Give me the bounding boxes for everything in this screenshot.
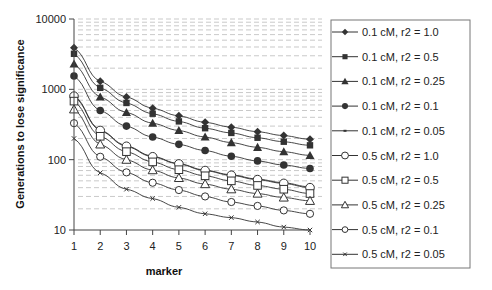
- square-filled-marker-icon: [281, 139, 287, 145]
- triangle-open-marker-icon: [96, 140, 105, 148]
- square-filled-marker-icon: [254, 135, 260, 141]
- square-open-marker-icon: [228, 177, 236, 185]
- circle-open-small-marker-icon: [254, 202, 261, 209]
- legend-label: 0.5 cM, r2 = 0.25: [362, 199, 445, 211]
- square-open-marker-icon: [342, 177, 348, 183]
- circle-filled-marker-icon: [254, 157, 262, 165]
- x-tick-label: 3: [123, 240, 129, 252]
- series-line: [70, 59, 315, 159]
- y-tick-label: 1000: [42, 83, 66, 95]
- legend-label: 0.5 cM, r2 = 1.0: [362, 150, 439, 162]
- circle-open-small-marker-icon: [123, 169, 130, 176]
- circle-filled-marker-icon: [201, 147, 209, 155]
- square-open-marker-icon: [280, 185, 288, 193]
- circle-filled-marker-icon: [306, 165, 314, 173]
- series-path: [74, 123, 310, 214]
- circle-filled-marker-icon: [228, 152, 236, 160]
- x-axis-title: marker: [146, 265, 183, 277]
- square-open-marker-icon: [201, 172, 209, 180]
- circle-filled-marker-icon: [342, 103, 348, 109]
- square-filled-marker-icon: [342, 54, 347, 59]
- square-filled-marker-icon: [307, 142, 313, 148]
- legend-label: 0.5 cM, r2 = 0.1: [362, 224, 439, 236]
- legend-label: 0.1 cM, r2 = 0.1: [362, 100, 439, 112]
- circle-filled-marker-icon: [175, 141, 183, 149]
- x-marker-icon: [98, 171, 102, 175]
- diamond-filled-marker-icon: [254, 128, 262, 136]
- circle-filled-marker-icon: [96, 107, 104, 115]
- square-filled-marker-icon: [149, 111, 155, 117]
- series-path: [74, 138, 310, 230]
- x-tick-label: 7: [228, 240, 234, 252]
- circle-open-small-marker-icon: [342, 227, 348, 233]
- x-tick-label: 10: [304, 240, 316, 252]
- line-chart: 1010010001000012345678910 Generations to…: [0, 0, 492, 290]
- series-group: [70, 44, 315, 232]
- circle-filled-marker-icon: [149, 133, 157, 141]
- legend-label: 0.5 cM, r2 = 0.5: [362, 174, 439, 186]
- circle-open-small-marker-icon: [280, 207, 287, 214]
- series-path: [74, 109, 310, 201]
- x-tick-label: 8: [254, 240, 260, 252]
- square-filled-marker-icon: [97, 85, 103, 91]
- y-tick-label: 10: [54, 224, 66, 236]
- circle-filled-marker-icon: [280, 161, 288, 169]
- series-line: [70, 92, 315, 192]
- legend: 0.1 cM, r2 = 1.00.1 cM, r2 = 0.50.1 cM, …: [331, 20, 470, 268]
- square-open-marker-icon: [149, 158, 157, 166]
- legend-label: 0.5 cM, r2 = 0.05: [362, 248, 445, 260]
- series-path: [74, 76, 310, 169]
- y-axis-title: Generations to lose significance: [14, 39, 26, 208]
- y-tick-label: 10000: [35, 13, 66, 25]
- square-filled-marker-icon: [123, 100, 129, 106]
- series-path: [74, 54, 310, 146]
- series-path: [74, 96, 310, 188]
- legend-label: 0.1 cM, r2 = 0.25: [362, 75, 445, 87]
- x-tick-label: 1: [71, 240, 77, 252]
- legend-label: 0.1 cM, r2 = 0.05: [362, 125, 445, 137]
- diamond-filled-marker-icon: [306, 135, 314, 143]
- legend-label: 0.1 cM, r2 = 1.0: [362, 26, 439, 38]
- circle-open-marker-icon: [342, 152, 349, 159]
- circle-open-small-marker-icon: [149, 179, 156, 186]
- square-filled-marker-icon: [176, 118, 182, 124]
- diamond-filled-marker-icon: [122, 93, 130, 101]
- square-filled-marker-icon: [202, 125, 208, 131]
- x-tick-label: 4: [150, 240, 156, 252]
- circle-filled-marker-icon: [123, 122, 131, 130]
- series-line: [70, 44, 314, 144]
- circle-open-small-marker-icon: [306, 210, 313, 217]
- x-tick-label: 6: [202, 240, 208, 252]
- x-tick-label: 9: [281, 240, 287, 252]
- series-line: [70, 72, 314, 172]
- diamond-filled-marker-icon: [96, 77, 104, 85]
- legend-label: 0.1 cM, r2 = 0.5: [362, 51, 439, 63]
- square-open-marker-icon: [175, 166, 183, 174]
- square-filled-marker-icon: [228, 130, 234, 136]
- circle-open-small-marker-icon: [228, 198, 235, 205]
- circle-open-small-marker-icon: [202, 193, 209, 200]
- y-tick-label: 100: [48, 154, 66, 166]
- circle-open-small-marker-icon: [97, 153, 104, 160]
- x-tick-label: 2: [97, 240, 103, 252]
- circle-open-small-marker-icon: [175, 186, 182, 193]
- x-tick-label: 5: [176, 240, 182, 252]
